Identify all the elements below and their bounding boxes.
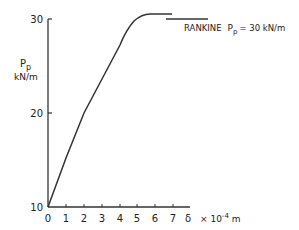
- rankine-label: RANKINEPp= 30 kN/m: [184, 23, 285, 36]
- y-tick-label: 30: [30, 14, 43, 25]
- x-tick-label: 0: [45, 213, 51, 224]
- x-tick-label: 1: [63, 213, 69, 224]
- x-axis-label: δ: [185, 213, 191, 224]
- y-tick-label: 20: [30, 108, 43, 119]
- measured-curve: [48, 14, 172, 207]
- x-tick-label: 4: [117, 213, 123, 224]
- x-tick-label: 5: [134, 213, 140, 224]
- chart: 30 20 10 0 1 2 3 4 5 6 7 δ × 10-4m Pp kN…: [0, 0, 299, 230]
- x-axis-label-multiplier: × 10-4m: [200, 212, 241, 224]
- y-axis-label: Pp: [20, 58, 31, 72]
- x-tick-label: 3: [99, 213, 105, 224]
- x-tick-label: 6: [152, 213, 158, 224]
- x-tick-label: 7: [170, 213, 176, 224]
- y-tick-label: 10: [30, 202, 43, 213]
- y-axis-unit: kN/m: [14, 72, 38, 82]
- x-tick-label: 2: [81, 213, 87, 224]
